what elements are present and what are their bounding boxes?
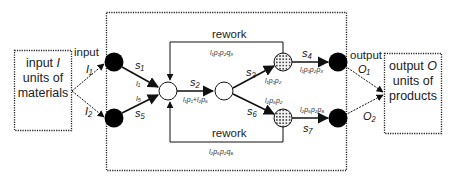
rework-bottom-label: rework — [212, 128, 247, 140]
output-box-line1: output — [389, 59, 427, 73]
label-flow-s7: l₂p₅p₂p₆ — [300, 106, 324, 113]
rework-top-flow: l₁p₁p₂q₃ — [210, 49, 233, 56]
input-node-2 — [105, 109, 124, 128]
rework-top-label: rework — [212, 29, 247, 41]
label-s4: s₄ — [302, 48, 312, 59]
input-box-line3: materials — [14, 86, 72, 101]
output-box-line3: products — [384, 89, 442, 104]
label-s3: s₃ — [246, 67, 256, 78]
label-s1: s₁ — [135, 60, 144, 71]
output-node-2 — [329, 109, 348, 128]
label-l1: l₁ — [136, 80, 140, 88]
input-box-var: I — [57, 56, 60, 70]
label-flow-s4: l₁p₁p₂p₃ — [300, 66, 323, 73]
label-I1: I₁ — [86, 64, 93, 75]
label-s6: s₆ — [247, 106, 257, 117]
merge-node — [159, 82, 177, 100]
input-label: input — [74, 47, 99, 59]
input-box-line1: input — [26, 56, 57, 70]
split-node — [215, 82, 233, 100]
label-s2: s₂ — [190, 77, 200, 88]
label-l5: l₅ — [136, 95, 141, 103]
label-flow-s2: l₁p₁+l₂p₅ — [183, 96, 208, 103]
input-box-text: input I units of materials — [14, 56, 72, 101]
rework-top-line — [170, 42, 283, 80]
output-label: output — [350, 50, 382, 62]
inspection-node-1 — [274, 53, 292, 71]
output-box-text: output O units of products — [384, 59, 442, 104]
label-s5: s₅ — [135, 108, 145, 119]
label-O2: O₂ — [363, 111, 376, 122]
rework-bottom-flow: l₂p₅p₂q₆ — [209, 148, 233, 155]
label-flow-s3: l₁p₁p₂ — [265, 77, 281, 84]
label-s7: s₇ — [303, 123, 312, 134]
inspection-node-2 — [274, 109, 292, 127]
input-box-line2: units of — [14, 71, 72, 86]
label-I2: I₂ — [85, 106, 92, 117]
output-box-var: O — [427, 59, 437, 73]
output-node-1 — [329, 53, 348, 72]
output-box-line2: units of — [384, 74, 442, 89]
label-O1: O₁ — [358, 64, 370, 75]
input-node-1 — [105, 53, 124, 72]
label-flow-s6: l₂p₅p₂ — [265, 97, 283, 104]
